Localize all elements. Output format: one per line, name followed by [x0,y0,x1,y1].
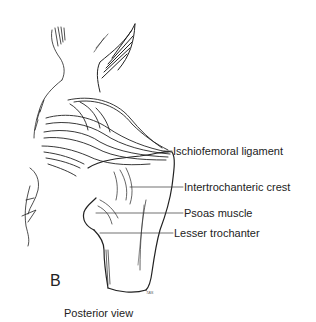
femur-outline [83,151,174,292]
ischial-spine [94,24,135,92]
figure-caption: Posterior view [64,307,133,319]
label-psoas-muscle: Psoas muscle [184,207,252,219]
artist-signature: TAS [146,290,153,295]
label-lesser-trochanter: Lesser trochanter [174,227,260,239]
label-ischiofemoral-ligament: Ischiofemoral ligament [173,145,283,157]
hip-joint-illustration [0,0,316,322]
leader-lines [96,151,183,233]
panel-letter: B [50,273,61,289]
ilium-hatching [34,27,65,138]
label-intertrochanteric-crest: Intertrochanteric crest [184,181,290,193]
ischiofemoral-ligament-fibers [42,98,170,176]
pelvis-edge [22,168,39,246]
